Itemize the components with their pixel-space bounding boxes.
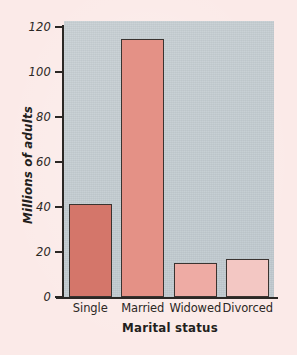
bar-divorced	[226, 259, 269, 297]
y-axis-title: Millions of adults	[21, 65, 35, 265]
x-axis-label-married: Married	[117, 301, 170, 315]
figure-page: 020406080100120 SingleMarriedWidowedDivo…	[0, 0, 297, 355]
y-axis-tick-mark	[55, 251, 63, 253]
x-axis-label-single: Single	[64, 301, 117, 315]
x-axis-tick-labels: SingleMarriedWidowedDivorced	[64, 301, 276, 321]
y-axis-tick-mark	[55, 26, 63, 28]
x-axis-label-widowed: Widowed	[169, 301, 222, 315]
y-axis-tick-label: 0	[5, 290, 51, 304]
y-axis-tick-mark	[55, 161, 63, 163]
y-axis-tick-mark	[55, 116, 63, 118]
y-axis-tick-label: 120	[5, 20, 51, 34]
y-axis-tick-mark	[55, 206, 63, 208]
y-axis-tick-mark	[55, 71, 63, 73]
x-axis-label-divorced: Divorced	[222, 301, 275, 315]
x-axis-title: Marital status	[64, 321, 276, 335]
bar-chart-figure: 020406080100120 SingleMarriedWidowedDivo…	[0, 0, 297, 355]
bar-widowed	[174, 263, 217, 297]
bars-layer	[64, 21, 274, 297]
x-axis-line	[56, 297, 278, 299]
bar-married	[121, 39, 164, 297]
y-axis-tick-mark	[55, 296, 63, 298]
bar-single	[69, 204, 112, 297]
